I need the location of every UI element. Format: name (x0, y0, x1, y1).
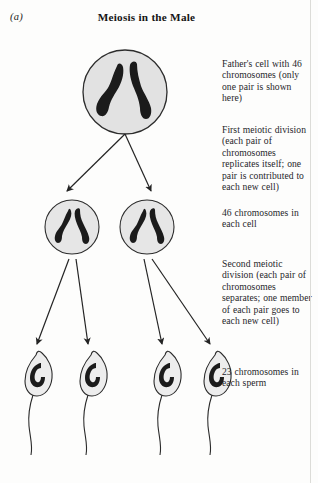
first-division-arrows (67, 134, 151, 191)
caption-father-cell: Father's cell with 46 chromosomes (only … (222, 58, 314, 104)
sperm-1 (25, 351, 52, 455)
sperm-2 (80, 351, 107, 455)
caption-46-chromosomes: 46 chromosomes in each cell (222, 207, 314, 230)
caption-second-division: Second meiotic division (each pair of ch… (222, 258, 314, 326)
caption-first-division: First meiotic division (each pair of chr… (222, 124, 314, 192)
caption-23-chromosomes: 23 chromosomes in each sperm (222, 366, 314, 389)
second-division-arrows-left (37, 259, 88, 344)
daughter-cell-right (120, 200, 174, 254)
page-edge-rule (310, 0, 311, 483)
father-cell (83, 50, 167, 134)
figure-page: (a) Meiosis in the Male (0, 0, 318, 483)
daughter-cell-left (45, 200, 99, 254)
sperm-3 (154, 351, 181, 455)
second-division-arrows-right (144, 259, 210, 344)
